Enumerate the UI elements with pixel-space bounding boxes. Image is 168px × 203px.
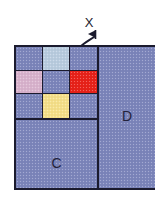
texture-overlay	[70, 71, 97, 94]
axis-marker: X	[78, 16, 112, 48]
texture-overlay	[16, 120, 97, 188]
region-d-label: D	[99, 109, 155, 123]
texture-overlay	[16, 71, 42, 94]
grid-cell-r1c2	[43, 47, 70, 71]
grid-cell-r1c3	[70, 47, 97, 71]
texture-overlay	[43, 47, 69, 70]
region-d: D	[97, 47, 155, 188]
texture-overlay	[70, 47, 97, 70]
axis-label-x: X	[78, 16, 100, 29]
texture-overlay	[16, 47, 42, 70]
unit-cell-grid	[16, 47, 97, 118]
grid-cell-r2c1	[16, 71, 43, 95]
grid-cell-r2c2	[43, 71, 70, 95]
texture-overlay	[43, 94, 69, 118]
figure-root: X D C	[0, 0, 168, 203]
region-c-label: C	[16, 156, 97, 170]
grid-cell-r3c1	[16, 94, 43, 118]
region-c: C	[16, 118, 97, 188]
texture-overlay	[43, 71, 69, 94]
texture-overlay	[70, 94, 97, 118]
grid-cell-r1c1	[16, 47, 43, 71]
grid-cell-r2c3	[70, 71, 97, 95]
grid-cell-r3c3	[70, 94, 97, 118]
grid-cell-r3c2	[43, 94, 70, 118]
texture-overlay	[16, 94, 42, 118]
partition-square: D C	[14, 45, 155, 190]
